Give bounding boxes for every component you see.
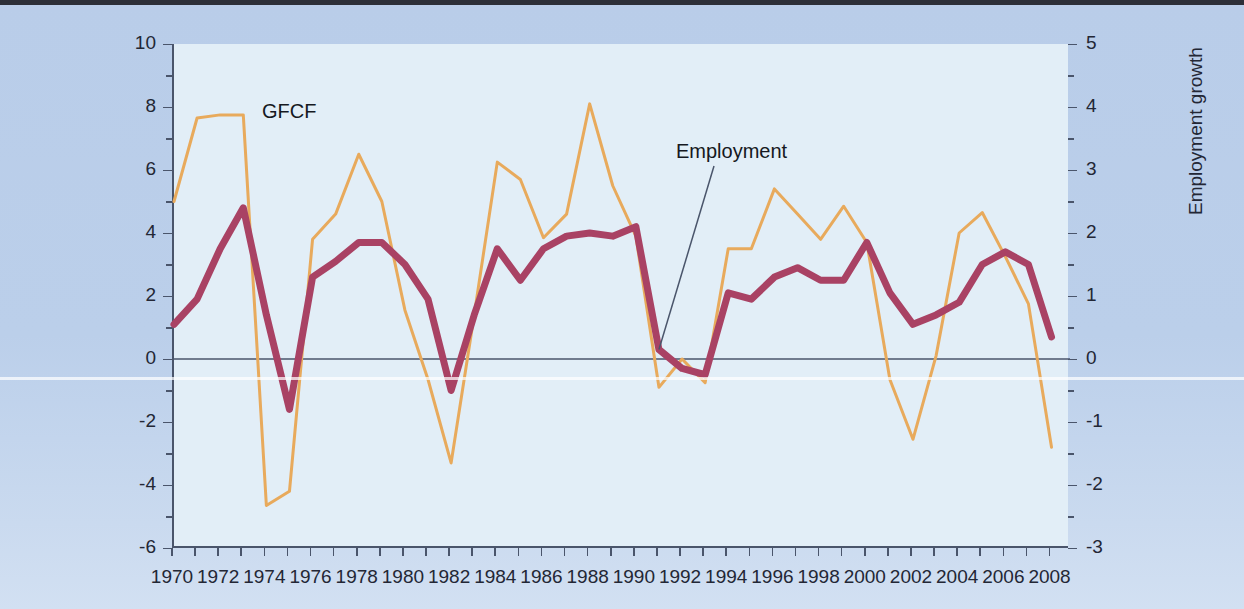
series-line-employment bbox=[174, 208, 1052, 410]
x-axis-tick-mark bbox=[171, 548, 173, 556]
x-axis-tick-mark bbox=[910, 548, 912, 556]
x-axis-tick-mark bbox=[633, 548, 635, 556]
x-axis-tick-label: 2002 bbox=[890, 566, 932, 588]
left-axis-tick-mark bbox=[166, 453, 172, 455]
x-axis-tick-mark bbox=[425, 548, 427, 556]
x-axis-tick-mark bbox=[240, 548, 242, 556]
x-axis-tick-label: 1998 bbox=[797, 566, 839, 588]
x-axis-tick-label: 1984 bbox=[474, 566, 516, 588]
x-axis-tick-mark bbox=[518, 548, 520, 556]
right-axis-title: Employment growth bbox=[1185, 47, 1207, 215]
x-axis-tick-label: 2000 bbox=[844, 566, 886, 588]
x-axis-tick-mark bbox=[956, 548, 958, 556]
x-axis-tick-mark bbox=[610, 548, 612, 556]
x-axis-tick-mark bbox=[494, 548, 496, 556]
left-axis-tick-mark bbox=[163, 170, 172, 172]
x-axis-tick-mark bbox=[933, 548, 935, 556]
left-axis-tick-label: 4 bbox=[94, 221, 156, 243]
left-axis-tick-mark bbox=[166, 201, 172, 203]
right-axis-tick-mark bbox=[1068, 327, 1074, 329]
x-axis-tick-mark bbox=[841, 548, 843, 556]
right-axis-tick-mark bbox=[1068, 390, 1074, 392]
x-axis-tick-mark bbox=[725, 548, 727, 556]
x-axis-tick-mark bbox=[264, 548, 266, 556]
x-axis-tick-mark bbox=[1026, 548, 1028, 556]
x-axis-tick-mark bbox=[702, 548, 704, 556]
right-axis-tick-label: 4 bbox=[1086, 95, 1148, 117]
right-axis-tick-mark bbox=[1068, 453, 1074, 455]
x-axis-tick-label: 2008 bbox=[1028, 566, 1070, 588]
x-axis-tick-label: 1978 bbox=[336, 566, 378, 588]
left-axis-tick-label: 10 bbox=[94, 32, 156, 54]
right-axis-tick-mark bbox=[1068, 264, 1074, 266]
x-axis-tick-mark bbox=[979, 548, 981, 556]
x-axis-tick-label: 1982 bbox=[428, 566, 470, 588]
x-axis-tick-mark bbox=[333, 548, 335, 556]
x-axis-tick-label: 1996 bbox=[751, 566, 793, 588]
left-axis-tick-label: 8 bbox=[94, 95, 156, 117]
right-axis-tick-label: -2 bbox=[1086, 473, 1148, 495]
x-axis-tick-mark bbox=[310, 548, 312, 556]
x-axis-tick-label: 1970 bbox=[151, 566, 193, 588]
right-axis-tick-mark bbox=[1068, 44, 1077, 46]
x-axis-tick-label: 1986 bbox=[520, 566, 562, 588]
x-axis-tick-mark bbox=[772, 548, 774, 556]
left-axis-tick-mark bbox=[163, 485, 172, 487]
x-axis-tick-mark bbox=[679, 548, 681, 556]
left-axis-tick-mark bbox=[163, 359, 172, 361]
x-axis-tick-mark bbox=[471, 548, 473, 556]
right-axis-tick-label: 1 bbox=[1086, 284, 1148, 306]
x-axis-tick-label: 1974 bbox=[243, 566, 285, 588]
right-axis-tick-mark bbox=[1068, 201, 1074, 203]
x-axis-tick-mark bbox=[1049, 548, 1051, 556]
x-axis-tick-label: 1990 bbox=[613, 566, 655, 588]
right-axis-tick-label: 2 bbox=[1086, 221, 1148, 243]
x-axis-tick-label: 1976 bbox=[289, 566, 331, 588]
x-axis-tick-label: 2006 bbox=[982, 566, 1024, 588]
x-axis-tick-label: 1994 bbox=[705, 566, 747, 588]
x-axis-tick-mark bbox=[795, 548, 797, 556]
left-axis-tick-label: -4 bbox=[94, 473, 156, 495]
x-axis-tick-label: 1988 bbox=[567, 566, 609, 588]
x-axis-tick-mark bbox=[564, 548, 566, 556]
x-axis-tick-mark bbox=[1003, 548, 1005, 556]
right-axis-tick-mark bbox=[1068, 107, 1077, 109]
left-axis-tick-label: 6 bbox=[94, 158, 156, 180]
right-axis-tick-mark bbox=[1068, 75, 1074, 77]
x-axis-tick-mark bbox=[864, 548, 866, 556]
x-axis-tick-mark bbox=[818, 548, 820, 556]
left-axis-tick-mark bbox=[166, 516, 172, 518]
right-axis-tick-label: -3 bbox=[1086, 536, 1148, 558]
right-axis-tick-mark bbox=[1068, 422, 1077, 424]
right-axis-tick-label: 0 bbox=[1086, 347, 1148, 369]
x-axis-tick-mark bbox=[402, 548, 404, 556]
right-axis-tick-label: -1 bbox=[1086, 410, 1148, 432]
x-axis-tick-mark bbox=[287, 548, 289, 556]
left-axis-tick-mark bbox=[163, 44, 172, 46]
x-axis-tick-mark bbox=[194, 548, 196, 556]
left-axis-tick-mark bbox=[166, 390, 172, 392]
left-axis-tick-mark bbox=[163, 107, 172, 109]
left-axis-tick-label: -6 bbox=[94, 536, 156, 558]
left-axis-tick-mark bbox=[163, 233, 172, 235]
right-axis-tick-mark bbox=[1068, 138, 1074, 140]
left-axis-tick-label: 0 bbox=[94, 347, 156, 369]
left-axis-tick-mark bbox=[163, 296, 172, 298]
x-axis-tick-label: 1972 bbox=[197, 566, 239, 588]
x-axis-tick-label: 1980 bbox=[382, 566, 424, 588]
x-axis-tick-mark bbox=[379, 548, 381, 556]
x-axis-tick-mark bbox=[656, 548, 658, 556]
left-axis-tick-mark bbox=[163, 422, 172, 424]
x-axis-tick-mark bbox=[356, 548, 358, 556]
right-axis-tick-mark bbox=[1068, 170, 1077, 172]
right-axis-tick-mark bbox=[1068, 548, 1077, 550]
left-axis-tick-mark bbox=[166, 327, 172, 329]
annotation-leader-line bbox=[659, 166, 714, 350]
right-axis-tick-label: 5 bbox=[1086, 32, 1148, 54]
right-axis-tick-mark bbox=[1068, 233, 1077, 235]
left-axis-tick-mark bbox=[166, 264, 172, 266]
series-lines bbox=[174, 104, 1052, 506]
left-axis-tick-label: -2 bbox=[94, 410, 156, 432]
x-axis-tick-mark bbox=[217, 548, 219, 556]
right-axis-tick-mark bbox=[1068, 485, 1077, 487]
